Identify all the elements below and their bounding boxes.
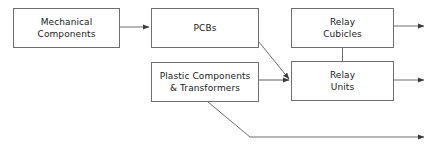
node-mechanical-components[interactable]: Mechanical Components (13, 8, 120, 48)
node-plastic-components-transformers[interactable]: Plastic Components & Transformers (151, 62, 259, 102)
process-flow-diagram: Mechanical Components PCBs Relay Cubicle… (0, 0, 441, 148)
node-label-line2: Components (38, 28, 96, 40)
node-label-line1: PCBs (194, 22, 217, 34)
node-pcbs[interactable]: PCBs (151, 8, 259, 48)
node-label-line2: & Transformers (170, 82, 240, 94)
connector-pcbs-to-relay-units (259, 42, 289, 79)
node-relay-units[interactable]: Relay Units (291, 61, 394, 101)
node-label-line2: Units (331, 81, 355, 93)
node-label-line2: Cubicles (323, 28, 362, 40)
node-label-line1: Plastic Components (160, 70, 251, 82)
node-label-line1: Relay (330, 69, 355, 81)
connector-plastic-bypass-output (208, 102, 424, 137)
node-label-line1: Relay (330, 16, 355, 28)
node-label-line1: Mechanical (41, 16, 93, 28)
node-relay-cubicles[interactable]: Relay Cubicles (291, 8, 394, 48)
